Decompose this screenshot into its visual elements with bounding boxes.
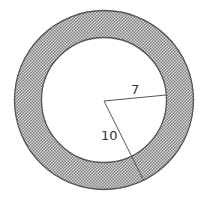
outer-radius-label: 10 xyxy=(101,128,118,143)
annulus-diagram: 7 10 xyxy=(0,0,206,207)
inner-radius-label: 7 xyxy=(131,82,139,97)
inner-circle xyxy=(42,38,167,163)
